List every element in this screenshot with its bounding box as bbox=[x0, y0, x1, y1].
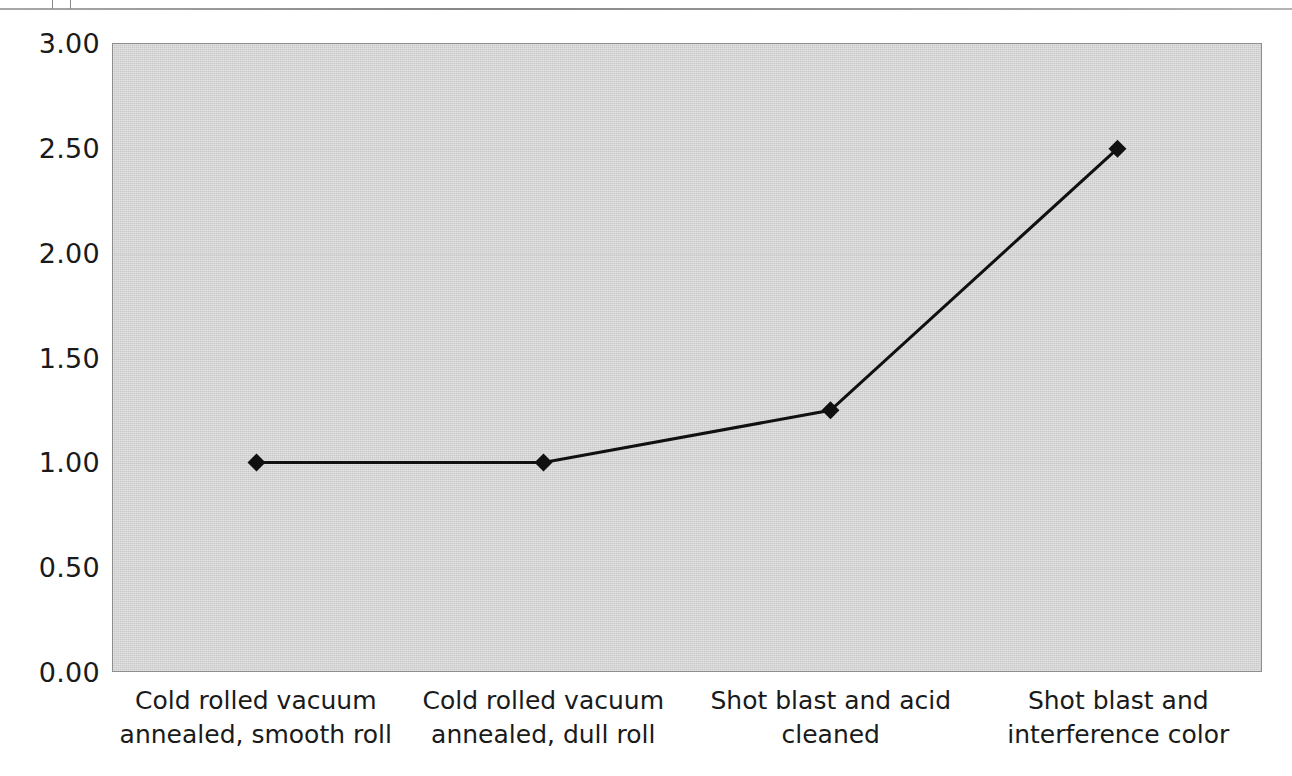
y-axis-tick-label: 1.50 bbox=[4, 344, 100, 371]
x-axis-category-label-line: interference color bbox=[975, 718, 1263, 752]
y-axis-tick-label: 0.00 bbox=[4, 659, 100, 686]
data-point-marker[interactable] bbox=[248, 454, 266, 472]
x-axis-category-label-line: cleaned bbox=[687, 718, 975, 752]
x-axis-category-label-line: annealed, dull roll bbox=[400, 718, 688, 752]
y-axis-tick-label: 0.50 bbox=[4, 554, 100, 581]
y-axis-tick-label: 2.50 bbox=[4, 134, 100, 161]
x-axis: Cold rolled vacuumannealed, smooth rollC… bbox=[112, 684, 1262, 768]
data-point-marker[interactable] bbox=[535, 454, 553, 472]
plot-area bbox=[112, 43, 1262, 672]
y-axis-tick-label: 3.00 bbox=[4, 30, 100, 57]
line-chart: 0.000.501.001.502.002.503.00 Cold rolled… bbox=[0, 0, 1292, 776]
x-axis-category-label: Shot blast andinterference color bbox=[975, 684, 1263, 752]
x-axis-category-label-line: Cold rolled vacuum bbox=[112, 684, 400, 718]
data-series-layer bbox=[113, 44, 1261, 672]
x-axis-category-label-line: Shot blast and bbox=[975, 684, 1263, 718]
x-axis-category-label: Cold rolled vacuumannealed, smooth roll bbox=[112, 684, 400, 752]
x-axis-category-label: Shot blast and acidcleaned bbox=[687, 684, 975, 752]
x-axis-category-label: Cold rolled vacuumannealed, dull roll bbox=[400, 684, 688, 752]
x-axis-category-label-line: annealed, smooth roll bbox=[112, 718, 400, 752]
y-axis-tick-label: 1.00 bbox=[4, 449, 100, 476]
series-line bbox=[256, 149, 1117, 463]
x-axis-category-label-line: Cold rolled vacuum bbox=[400, 684, 688, 718]
y-axis-tick-label: 2.00 bbox=[4, 239, 100, 266]
x-axis-category-label-line: Shot blast and acid bbox=[687, 684, 975, 718]
y-axis: 0.000.501.001.502.002.503.00 bbox=[0, 43, 100, 672]
